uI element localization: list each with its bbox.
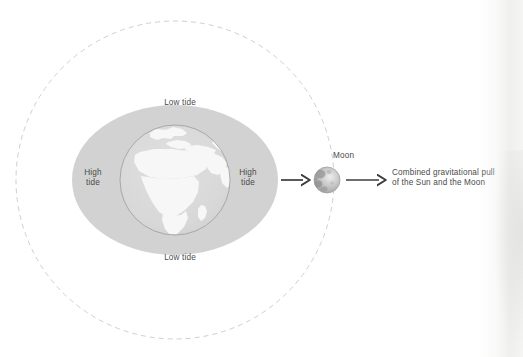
label-low-tide-top: Low tide [148, 98, 212, 108]
label-high-tide-right-line1: High [218, 168, 278, 178]
label-high-tide-left-line2: tide [63, 178, 123, 188]
label-combined-pull-line1: Combined gravitational pull [392, 168, 522, 178]
label-moon: Moon [333, 151, 373, 161]
label-high-tide-right-line2: tide [218, 178, 278, 188]
label-combined-pull: Combined gravitational pull of the Sun a… [392, 168, 522, 188]
label-high-tide-left: High tide [63, 168, 123, 188]
label-low-tide-bottom: Low tide [148, 253, 212, 263]
label-combined-pull-line2: of the Sun and the Moon [392, 178, 522, 188]
moon-body [314, 167, 340, 193]
label-high-tide-right: High tide [218, 168, 278, 188]
diagram-canvas: Low tide Low tide High tide High tide Mo… [0, 0, 523, 357]
label-high-tide-left-line1: High [63, 168, 123, 178]
